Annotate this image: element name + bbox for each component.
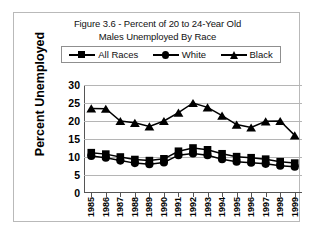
triangle-marker-icon — [217, 112, 227, 120]
circle-marker-icon — [276, 162, 284, 170]
triangle-marker-icon — [145, 122, 155, 130]
x-axis-tick-label: 1987 — [115, 197, 125, 217]
legend-line-white — [153, 50, 179, 59]
y-axis-tick-label: 20 — [68, 115, 80, 127]
triangle-marker-icon — [159, 117, 169, 125]
y-axis-tick-label: 15 — [68, 133, 80, 145]
plot-area: 051015202530 198519861987198819891990199… — [84, 85, 302, 193]
circle-marker-icon — [162, 51, 170, 59]
legend-entry-black: Black — [221, 49, 273, 60]
legend-line-all-races — [69, 50, 95, 59]
circle-marker-icon — [116, 157, 124, 165]
x-axis-tick-label: 1991 — [173, 197, 183, 217]
legend-entry-white: White — [153, 49, 206, 60]
legend-label-white: White — [180, 49, 206, 60]
circle-marker-icon — [233, 158, 241, 166]
x-axis-tick-label: 1993 — [203, 197, 213, 217]
triangle-marker-icon — [203, 103, 213, 111]
figure-frame: Figure 3.6 - Percent of 20 to 24-Year Ol… — [13, 12, 300, 222]
legend-entry-all-races: All Races — [69, 49, 138, 60]
x-axis-tick-label: 1995 — [232, 197, 242, 217]
chart-legend: All Races White Black — [61, 46, 281, 63]
x-axis-tick-label: 1998 — [275, 197, 285, 217]
y-axis-tick-label: 0 — [74, 187, 80, 199]
legend-line-black — [221, 50, 247, 59]
y-axis-title: Percent Unemployed — [33, 24, 47, 164]
x-axis-tick-label: 1988 — [130, 197, 140, 217]
x-axis-tick-label: 1992 — [188, 197, 198, 217]
circle-marker-icon — [218, 155, 226, 163]
series-layer — [84, 85, 302, 193]
circle-marker-icon — [145, 160, 153, 168]
y-axis-tick-label: 25 — [68, 97, 80, 109]
chart-title-line-1: Figure 3.6 - Percent of 20 to 24-Year Ol… — [14, 18, 301, 31]
circle-marker-icon — [203, 151, 211, 159]
chart-title-line-2: Males Unemployed By Race — [14, 31, 301, 44]
circle-marker-icon — [102, 154, 110, 162]
circle-marker-icon — [247, 159, 255, 167]
legend-label-all-races: All Races — [96, 49, 138, 60]
x-axis-tick-label: 1989 — [144, 197, 154, 217]
series-line-black — [91, 103, 294, 135]
x-axis-tick-label: 1994 — [217, 197, 227, 217]
chart-title-block: Figure 3.6 - Percent of 20 to 24-Year Ol… — [14, 18, 301, 43]
circle-marker-icon — [131, 159, 139, 167]
x-axis-tick-label: 1997 — [261, 197, 271, 217]
y-axis-tick-label: 5 — [74, 169, 80, 181]
x-axis-tick-label: 1986 — [101, 197, 111, 217]
legend-label-black: Black — [248, 49, 273, 60]
x-axis-tick-label: 1996 — [246, 197, 256, 217]
circle-marker-icon — [189, 149, 197, 157]
x-axis-tick-label: 1999 — [290, 197, 300, 217]
x-axis-tick-label: 1985 — [86, 197, 96, 217]
circle-marker-icon — [174, 151, 182, 159]
triangle-marker-icon — [188, 99, 198, 107]
x-axis-tick-label: 1990 — [159, 197, 169, 217]
circle-marker-icon — [291, 163, 299, 171]
circle-marker-icon — [160, 158, 168, 166]
square-marker-icon — [78, 51, 85, 58]
y-axis-tick-label: 10 — [68, 151, 80, 163]
triangle-marker-icon — [230, 51, 238, 59]
circle-marker-icon — [87, 152, 95, 160]
circle-marker-icon — [262, 160, 270, 168]
y-axis-tick-label: 30 — [68, 79, 80, 91]
